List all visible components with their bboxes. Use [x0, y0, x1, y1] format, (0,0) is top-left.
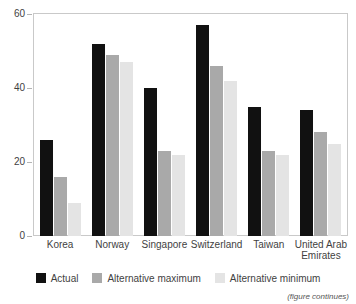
bar-group: [34, 14, 86, 236]
bar: [172, 155, 185, 236]
figure-title: [6, 0, 336, 2]
x-axis-label: United Arab Emirates: [289, 239, 353, 261]
legend-item: Alternative maximum: [92, 273, 200, 284]
bar-group: [243, 14, 295, 236]
y-axis-tick-label: 20: [0, 157, 25, 167]
bar: [196, 25, 209, 236]
legend-swatch-icon: [92, 273, 102, 283]
bar: [158, 151, 171, 236]
bar: [224, 81, 237, 236]
bar: [300, 110, 313, 236]
x-axis-labels: KoreaNorwaySingaporeSwitzerlandTaiwanUni…: [34, 239, 347, 267]
legend-swatch-icon: [36, 273, 46, 283]
y-axis: 0204060: [0, 0, 33, 304]
y-axis-tick-label: 60: [0, 9, 25, 19]
legend-item: Alternative minimum: [215, 273, 321, 284]
legend-label: Actual: [51, 273, 79, 284]
y-axis-tick-mark: [27, 88, 32, 89]
bar: [276, 155, 289, 236]
bar: [54, 177, 67, 236]
bar-group: [295, 14, 347, 236]
bar: [120, 62, 133, 236]
bar-group: [191, 14, 243, 236]
bar: [262, 151, 275, 236]
y-axis-tick-mark: [27, 14, 32, 15]
chart-legend: ActualAlternative maximumAlternative min…: [0, 271, 356, 285]
bar: [314, 132, 327, 236]
y-axis-tick-mark: [27, 162, 32, 163]
y-axis-tick-label: 40: [0, 83, 25, 93]
bar-group: [86, 14, 138, 236]
legend-item: Actual: [36, 273, 79, 284]
bar: [68, 203, 81, 236]
bar: [106, 55, 119, 236]
y-axis-tick-label: 0: [0, 231, 25, 241]
legend-label: Alternative maximum: [107, 273, 200, 284]
bar: [144, 88, 157, 236]
legend-swatch-icon: [215, 273, 225, 283]
bar: [210, 66, 223, 236]
figure-continues-note: (figure continues): [287, 292, 349, 301]
legend-label: Alternative minimum: [230, 273, 321, 284]
bar: [328, 144, 341, 237]
bar-group: [138, 14, 190, 236]
bar: [248, 107, 261, 237]
bar: [92, 44, 105, 236]
bars-layer: [34, 14, 347, 236]
bar: [40, 140, 53, 236]
y-axis-tick-mark: [27, 236, 32, 237]
